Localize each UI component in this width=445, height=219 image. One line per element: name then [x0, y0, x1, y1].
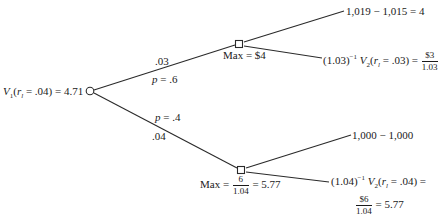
branch-down-probability: p = .4: [155, 112, 180, 123]
fraction-denominator: 1.04: [233, 186, 249, 196]
discount-factor: (1.04): [331, 175, 358, 187]
branch-down-rate: .04: [152, 131, 166, 142]
exponent: −1: [358, 174, 365, 182]
v-symbol: V: [360, 54, 367, 66]
branch-up-probability: p = .6: [152, 74, 177, 85]
decision-node-down-icon: [238, 167, 245, 174]
fraction-denominator: 1.04: [356, 206, 372, 216]
v-symbol: V: [368, 175, 375, 187]
result-value: = 5.77: [376, 198, 404, 210]
root-value-label: V1(rl = .04) = 4.71: [3, 86, 83, 97]
fraction-numerator: $3: [422, 51, 438, 62]
chance-node-icon: [86, 87, 94, 95]
max-suffix: = 5.77: [252, 178, 280, 190]
fraction: $61.04: [356, 195, 372, 216]
decision-down-max-label: Max = 61.04 = 5.77: [200, 175, 281, 196]
leaf-up-continue-label: (1.03)−1 V2(rl = .03) = $31.03: [323, 51, 439, 72]
exponent: −1: [350, 53, 357, 61]
fraction: 61.04: [233, 175, 249, 196]
arg-rest: = .04) =: [388, 175, 426, 187]
arg-rest: = .03) =: [380, 54, 418, 66]
root-arg-rest: = .04) = 4.71: [23, 85, 83, 97]
leaf-down-continue-result: $61.04 = 5.77: [355, 195, 404, 216]
root-v-symbol: V: [3, 85, 10, 97]
branch-up-rate: .03: [155, 56, 169, 67]
fraction: $31.03: [422, 51, 438, 72]
max-prefix: Max =: [200, 178, 229, 190]
decision-up-max-label: Max = $4: [223, 50, 266, 61]
leaf-down-exercise-line: [246, 135, 351, 168]
fraction-numerator: 6: [233, 175, 249, 186]
prob-down-value: = .4: [161, 111, 181, 123]
decision-node-up-icon: [236, 41, 243, 48]
leaf-down-exercise-label: 1,000 − 1,000: [352, 130, 413, 141]
fraction-numerator: $6: [356, 195, 372, 206]
leaf-down-continue-label: (1.04)−1 V2(rl = .04) =: [331, 176, 426, 187]
prob-up-value: = .6: [158, 73, 178, 85]
leaf-up-exercise-line: [244, 11, 344, 42]
fraction-denominator: 1.03: [422, 62, 438, 72]
leaf-up-exercise-label: 1,019 − 1,015 = 4: [346, 6, 424, 17]
discount-factor: (1.03): [323, 54, 350, 66]
